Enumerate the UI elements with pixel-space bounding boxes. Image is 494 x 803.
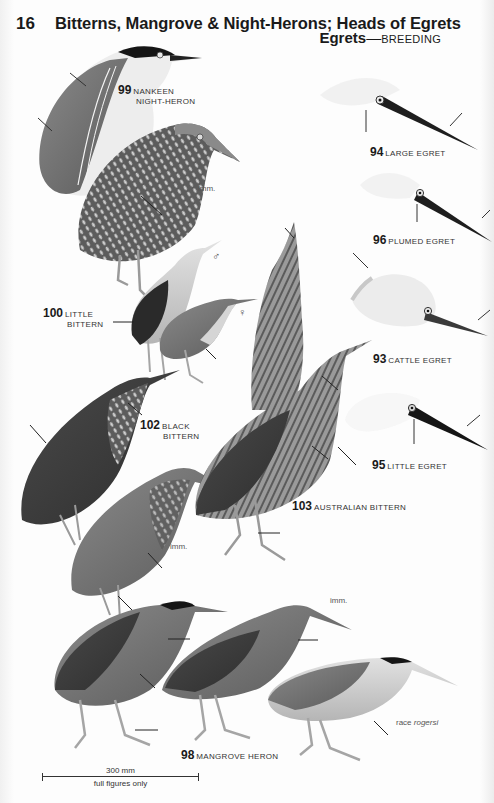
- mangrove-heron-rogersi: [268, 657, 458, 760]
- scale-bar: 300 mm full figures only: [42, 766, 199, 788]
- species-label-103: 103AUSTRALIAN BITTERN: [292, 501, 406, 513]
- race-note: race rogersi: [396, 718, 438, 727]
- species-label-98: 98MANGROVE HERON: [181, 750, 278, 762]
- immature-note-102: imm.: [170, 542, 187, 551]
- species-label-96: 96PLUMED EGRET: [373, 235, 455, 247]
- field-guide-plate: 16 Bitterns, Mangrove & Night-Herons; He…: [0, 0, 494, 803]
- large-egret-head: [320, 78, 478, 150]
- species-label-94: 94LARGE EGRET: [370, 147, 446, 159]
- species-label-93: 93CATTLE EGRET: [373, 354, 452, 366]
- immature-note-98: imm.: [330, 596, 347, 605]
- scale-length: 300 mm: [42, 766, 199, 775]
- species-label-95: 95LITTLE EGRET: [372, 460, 447, 472]
- female-symbol: ♀: [238, 306, 246, 318]
- species-label-100: 100LITTLE BITTERN: [43, 308, 103, 330]
- species-label-102: 102BLACK BITTERN: [140, 420, 199, 442]
- immature-note-99: imm.: [198, 184, 215, 193]
- scale-caption: full figures only: [42, 779, 199, 788]
- little-egret-head: [345, 393, 488, 450]
- plumed-egret-head: [360, 173, 492, 242]
- australian-bittern-upright: [251, 222, 303, 410]
- scale-line: [42, 776, 199, 777]
- species-label-99: 99NANKEEN NIGHT-HERON: [118, 85, 195, 107]
- cattle-egret-head: [352, 253, 490, 336]
- bird-illustrations: [0, 0, 494, 803]
- male-symbol: ♂: [212, 250, 220, 262]
